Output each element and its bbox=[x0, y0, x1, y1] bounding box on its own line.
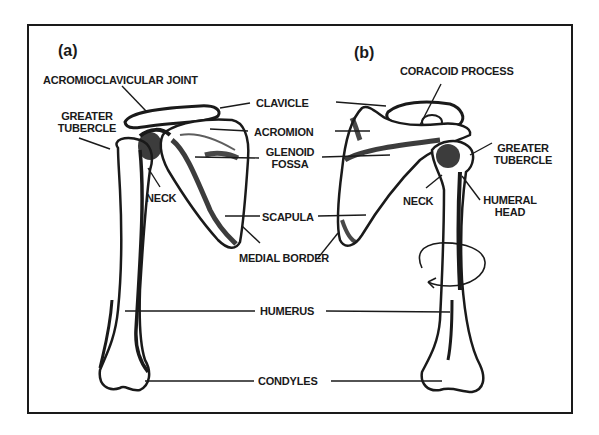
label-acromion: ACROMION bbox=[254, 126, 314, 138]
panel-b-bones bbox=[338, 102, 485, 392]
label-humeral-head-line1: HUMERAL bbox=[480, 194, 540, 206]
label-acromioclavicular-joint: ACROMIOCLAVICULAR JOINT bbox=[43, 74, 198, 86]
label-greater-tubercle-right-line1: GREATER bbox=[488, 142, 558, 154]
label-neck-right: NECK bbox=[403, 195, 433, 207]
label-glenoid-fossa-line1: GLENOID bbox=[258, 146, 322, 158]
label-greater-tubercle-right-line2: TUBERCLE bbox=[488, 154, 558, 166]
label-greater-tubercle-right: GREATER TUBERCLE bbox=[488, 142, 558, 166]
label-condyles: CONDYLES bbox=[258, 375, 318, 387]
label-glenoid-fossa-line2: FOSSA bbox=[258, 158, 322, 170]
label-coracoid-process: CORACOID PROCESS bbox=[400, 65, 514, 77]
label-greater-tubercle-left-line1: GREATER bbox=[52, 110, 122, 122]
panel-label-b: (b) bbox=[354, 44, 374, 62]
label-greater-tubercle-left: GREATER TUBERCLE bbox=[52, 110, 122, 134]
label-humerus: HUMERUS bbox=[260, 305, 314, 317]
label-clavicle: CLAVICLE bbox=[256, 97, 309, 109]
panel-label-a: (a) bbox=[58, 42, 78, 60]
label-humeral-head: HUMERAL HEAD bbox=[480, 194, 540, 218]
label-glenoid-fossa: GLENOID FOSSA bbox=[258, 146, 322, 170]
panel-a-bones bbox=[100, 106, 249, 390]
label-greater-tubercle-left-line2: TUBERCLE bbox=[52, 122, 122, 134]
label-medial-border: MEDIAL BORDER bbox=[239, 252, 329, 264]
label-scapula: SCAPULA bbox=[262, 211, 314, 223]
label-humeral-head-line2: HEAD bbox=[480, 206, 540, 218]
label-neck-left: NECK bbox=[146, 192, 176, 204]
